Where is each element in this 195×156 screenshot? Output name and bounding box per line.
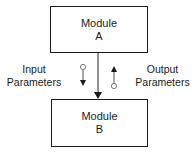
connector-layer bbox=[0, 0, 195, 156]
output-couple-arrow-icon bbox=[111, 66, 117, 89]
call-arrow bbox=[94, 53, 102, 99]
input-couple-arrow-icon bbox=[80, 64, 86, 86]
